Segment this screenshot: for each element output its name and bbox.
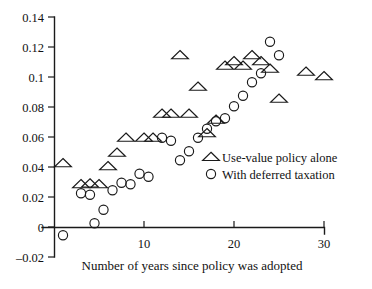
y-tick-label: 0.02 [22,191,44,205]
data-point-circle [229,102,238,111]
data-point-circle [108,186,117,195]
x-tick-label: 20 [228,237,241,251]
data-point-circle [256,69,265,78]
data-point-circle [166,136,175,145]
x-tick-label: 30 [318,237,331,251]
data-point-circle [58,231,67,240]
data-point-triangle [253,57,270,65]
x-axis-line [42,228,325,235]
data-point-layer [55,37,333,240]
y-tick-label: 0.14 [22,11,45,25]
data-point-circle [220,114,229,123]
data-point-triangle [154,109,171,117]
chart-legend: Use-value policy aloneWith deferred taxa… [203,151,338,182]
data-point-triangle [163,109,180,117]
data-point-circle [90,219,99,228]
data-point-circle [144,172,153,181]
data-point-circle [126,180,135,189]
data-point-triangle [298,67,315,75]
scatter-chart-figure: –0.0200.020.040.060.080.10.120.14 102030… [0,0,372,289]
y-tick-label: –0.02 [15,251,44,265]
data-point-circle [211,117,220,126]
y-tick-label: 0.12 [22,41,44,55]
x-axis-tick-labels: 102030 [138,237,331,251]
y-axis-tick-labels: –0.0200.020.040.060.080.10.120.14 [15,11,45,265]
data-point-circle [175,156,184,165]
triangle-up-icon [203,152,220,160]
data-point-circle [184,147,193,156]
y-axis-tick-marks [48,17,55,257]
data-point-triangle [316,72,333,80]
data-point-triangle [190,82,207,90]
data-point-circle [99,205,108,214]
y-tick-label: 0.04 [22,161,45,175]
data-point-circle [247,78,256,87]
data-point-triangle [271,94,288,102]
data-point-circle [85,190,94,199]
data-point-triangle [118,133,135,141]
data-point-circle [76,189,85,198]
data-point-triangle [181,109,198,117]
data-point-circle [157,133,166,142]
data-point-circle [274,51,283,60]
data-point-circle [135,169,144,178]
legend-entry-label: Use-value policy alone [222,151,338,165]
x-axis-tick-marks [144,221,324,228]
data-point-circle [265,37,274,46]
legend-entry-with-deferred-taxation: With deferred taxation [206,168,335,182]
data-point-circle [238,91,247,100]
y-axis: –0.0200.020.040.060.080.10.120.14 [15,11,55,265]
x-axis: 102030 Number of years since policy was … [42,221,330,273]
y-tick-label: 0.08 [22,101,44,115]
data-point-circle [117,178,126,187]
y-tick-label: 0.1 [28,71,44,85]
circle-icon [206,169,215,178]
data-point-triangle [199,129,216,137]
data-point-triangle [109,148,126,156]
legend-entry-label: With deferred taxation [222,168,335,182]
data-point-triangle [244,51,261,59]
y-tick-label: 0.06 [22,131,44,145]
data-point-triangle [136,133,153,141]
data-point-triangle [100,162,117,170]
x-tick-label: 10 [138,237,151,251]
chart-canvas: –0.0200.020.040.060.080.10.120.14 102030… [0,0,372,289]
data-point-triangle [55,159,72,167]
data-point-circle [193,133,202,142]
data-point-triangle [172,51,189,59]
x-axis-title: Number of years since policy was adopted [82,258,303,273]
legend-entry-use-value-policy-alone: Use-value policy alone [203,151,338,165]
